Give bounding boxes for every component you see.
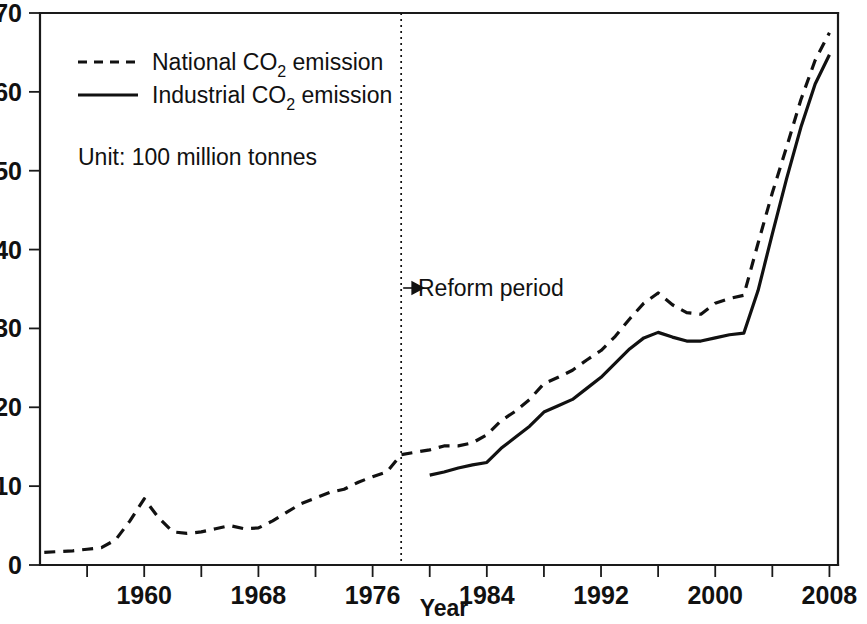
x-tick-label: 2000	[687, 581, 743, 609]
unit-note-label: Unit: 100 million tonnes	[78, 144, 317, 170]
legend-label-national-prefix: National CO	[152, 49, 277, 75]
y-tick-label: 10	[0, 472, 22, 500]
reform-period-annotation: Reform period	[403, 275, 564, 301]
y-axis-tick-labels: 010203040506070	[0, 0, 22, 579]
x-tick-label: 1960	[116, 581, 172, 609]
y-tick-label: 70	[0, 0, 22, 27]
co2-emission-line-chart: 010203040506070 196019681976198419922000…	[0, 0, 867, 624]
x-tick-label: 2008	[802, 581, 858, 609]
legend-label-industrial: Industrial CO2 emission	[152, 82, 392, 113]
x-tick-label: 1976	[345, 581, 401, 609]
x-axis-tick-labels: 1960196819761984199220002008	[116, 581, 857, 609]
chart-canvas: 010203040506070 196019681976198419922000…	[0, 0, 867, 624]
legend-label-industrial-subscript: 2	[286, 96, 295, 113]
x-axis-title: Year	[420, 595, 469, 621]
y-tick-label: 60	[0, 78, 22, 106]
legend-label-industrial-prefix: Industrial CO	[152, 82, 286, 108]
legend: National CO2 emission Industrial CO2 emi…	[78, 49, 392, 170]
x-tick-label: 1968	[231, 581, 287, 609]
y-axis-ticks	[29, 13, 40, 565]
y-tick-label: 40	[0, 236, 22, 264]
x-axis-ticks	[87, 565, 829, 577]
legend-label-national-subscript: 2	[277, 63, 286, 80]
legend-label-national: National CO2 emission	[152, 49, 383, 80]
y-tick-label: 0	[8, 551, 22, 579]
y-tick-label: 50	[0, 157, 22, 185]
legend-label-industrial-suffix: emission	[295, 82, 392, 108]
x-tick-label: 1992	[573, 581, 629, 609]
legend-label-national-suffix: emission	[286, 49, 383, 75]
series-industrial-co2-emission	[430, 55, 830, 475]
y-tick-label: 30	[0, 314, 22, 342]
reform-period-label: Reform period	[418, 275, 564, 301]
y-tick-label: 20	[0, 393, 22, 421]
